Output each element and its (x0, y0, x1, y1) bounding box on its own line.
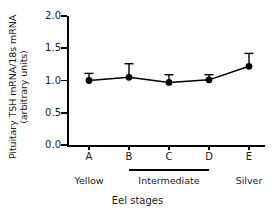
group-label-silver: Silver (199, 176, 275, 186)
x-axis-line (67, 145, 265, 147)
x-tick-mark-a (88, 145, 90, 150)
series-line (89, 66, 249, 82)
data-point-c (166, 79, 173, 86)
y-tick-mark-2 (61, 80, 67, 82)
y-tick-mark-0 (61, 144, 67, 146)
x-category-label-b: B (117, 152, 141, 162)
data-point-d (206, 76, 213, 83)
x-tick-mark-e (248, 145, 250, 150)
x-category-label-c: C (157, 152, 181, 162)
chart-figure: Pituitary TSH mRNA/18s mRNA (arbitrary u… (0, 0, 275, 212)
data-point-e (246, 63, 253, 70)
y-tick-mark-1 (61, 112, 67, 114)
group-bracket-intermediate (129, 169, 209, 171)
y-tick-label-2-0: 2.0 (33, 11, 61, 21)
y-axis-title-line-2: (arbitrary units) (19, 50, 30, 123)
x-tick-mark-b (128, 145, 130, 150)
data-point-b (126, 74, 133, 81)
y-tick-label-1-0: 1.0 (33, 76, 61, 86)
data-point-a (86, 77, 93, 84)
x-category-label-e: E (237, 152, 261, 162)
x-category-label-d: D (197, 152, 221, 162)
y-tick-mark-3 (61, 47, 67, 49)
x-tick-mark-c (168, 145, 170, 150)
x-axis-title: Eel stages (0, 196, 275, 206)
y-axis-line (67, 16, 69, 146)
y-axis-title: Pituitary TSH mRNA/18s mRNA (arbitrary u… (4, 17, 34, 157)
y-tick-label-0-0: 0.0 (33, 140, 61, 150)
x-category-label-a: A (77, 152, 101, 162)
x-tick-mark-d (208, 145, 210, 150)
y-tick-label-1-5: 1.5 (33, 43, 61, 53)
y-tick-label-0-5: 0.5 (33, 108, 61, 118)
y-tick-mark-4 (61, 15, 67, 17)
